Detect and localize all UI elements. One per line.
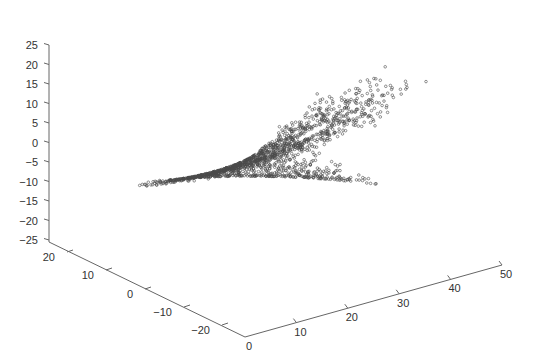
data-point: [279, 165, 282, 168]
data-point: [356, 117, 359, 120]
data-point: [348, 89, 351, 92]
x-tick: [396, 290, 399, 294]
data-point: [344, 92, 347, 95]
data-point: [367, 177, 370, 180]
data-point: [379, 111, 382, 114]
data-point: [369, 121, 372, 124]
data-point: [308, 106, 311, 109]
z-tick-label: 25: [26, 39, 38, 51]
data-point: [390, 88, 393, 91]
data-point: [314, 139, 317, 142]
data-point: [404, 80, 407, 83]
lorenz-3d-plot: 2520151050−5−10−15−20−2520100−10−2001020…: [0, 0, 547, 357]
data-point: [366, 182, 369, 185]
data-point: [368, 81, 371, 84]
x-tick: [345, 304, 348, 308]
x-tick: [448, 275, 451, 279]
data-point: [400, 93, 403, 96]
data-point: [359, 80, 362, 83]
data-point: [369, 182, 372, 185]
data-point: [374, 125, 377, 128]
z-tick-label: −25: [19, 234, 38, 246]
data-point: [303, 158, 306, 161]
data-point: [242, 170, 245, 173]
data-point: [308, 116, 311, 119]
data-point: [383, 100, 386, 103]
data-point: [366, 92, 369, 95]
data-point: [312, 118, 315, 121]
z-tick-label: −10: [19, 176, 38, 188]
data-point: [248, 168, 251, 171]
data-point: [425, 80, 428, 83]
data-point: [336, 165, 339, 168]
data-point: [325, 101, 328, 104]
z-tick-label: 5: [32, 117, 38, 129]
data-point: [385, 85, 388, 88]
data-point: [370, 109, 373, 112]
data-point: [338, 128, 341, 131]
z-tick-label: −20: [19, 215, 38, 227]
data-point: [280, 169, 283, 172]
data-point: [364, 178, 367, 181]
data-point: [286, 132, 289, 135]
data-point: [147, 181, 150, 184]
x-tick: [293, 319, 296, 323]
data-point: [361, 179, 364, 182]
data-point: [375, 101, 378, 104]
data-point: [405, 83, 408, 86]
data-point: [373, 107, 376, 110]
data-points: [138, 66, 427, 188]
z-tick: [44, 239, 49, 241]
z-tick: [44, 83, 49, 85]
y-tick-label: 20: [43, 251, 55, 263]
data-point: [334, 163, 337, 166]
y-tick: [106, 268, 112, 270]
z-tick: [44, 180, 49, 182]
x-tick-label: 20: [346, 311, 358, 323]
data-point: [332, 100, 335, 103]
data-point: [314, 102, 317, 105]
data-point: [371, 102, 374, 105]
data-point: [340, 96, 343, 99]
z-tick-label: −15: [19, 195, 38, 207]
y-tick: [222, 323, 228, 325]
x-tick-label: 40: [448, 282, 460, 294]
data-point: [306, 112, 309, 115]
data-point: [286, 157, 289, 160]
data-point: [297, 153, 300, 156]
data-point: [294, 121, 297, 124]
y-tick-label: 0: [127, 288, 133, 300]
data-point: [291, 124, 294, 127]
data-point: [330, 160, 333, 163]
z-tick: [44, 44, 49, 46]
data-point: [343, 99, 346, 102]
data-point: [339, 169, 342, 172]
z-tick: [44, 122, 49, 124]
data-point: [308, 121, 311, 124]
data-point: [355, 179, 358, 182]
data-point: [339, 163, 342, 166]
data-point: [379, 79, 382, 82]
y-tick-label: −20: [191, 324, 210, 336]
data-point: [375, 84, 378, 87]
data-point: [285, 126, 288, 129]
x-tick: [499, 261, 502, 265]
z-tick-label: −5: [25, 156, 38, 168]
data-point: [379, 116, 382, 119]
data-point: [328, 95, 331, 98]
data-point: [369, 85, 372, 88]
data-point: [354, 124, 357, 127]
axes-frame: 2520151050−5−10−15−20−2520100−10−2001020…: [19, 39, 512, 352]
data-point: [369, 89, 372, 92]
data-point: [363, 121, 366, 124]
z-tick-label: 0: [32, 137, 38, 149]
data-point: [340, 99, 343, 102]
data-point: [350, 98, 353, 101]
data-point: [377, 89, 380, 92]
data-point: [283, 134, 286, 137]
y-tick: [184, 305, 190, 307]
data-point: [348, 110, 351, 113]
z-tick-label: 20: [26, 59, 38, 71]
data-point: [341, 109, 344, 112]
y-tick-label: 10: [82, 269, 94, 281]
